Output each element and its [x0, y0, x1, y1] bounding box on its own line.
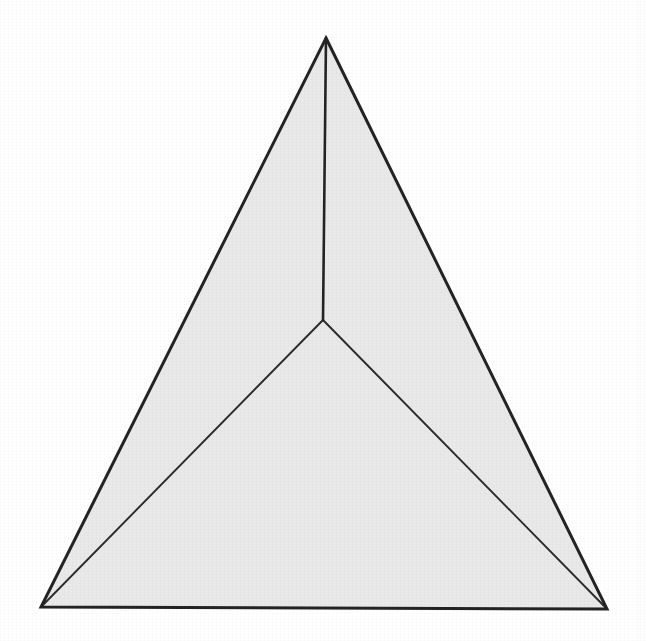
triangle-diagram	[0, 0, 646, 641]
figure-canvas	[0, 0, 646, 641]
